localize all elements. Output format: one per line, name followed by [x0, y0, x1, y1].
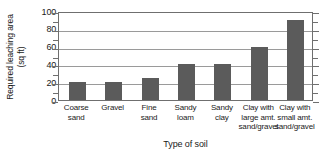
y-axis-tick-labels: 020406080100 — [30, 0, 56, 113]
x-axis-tick-labels: CoarsesandGravelFinesandSandyloamSandycl… — [58, 103, 313, 137]
x-axis-title: Type of soil — [58, 139, 313, 150]
right-axis-tick — [313, 93, 318, 94]
bar-chart-figure: Required leaching area (sq ft) 020406080… — [0, 0, 335, 159]
x-tick-label-line: sand — [53, 113, 99, 123]
right-axis-tick — [313, 22, 318, 23]
left-axis-tick — [52, 13, 58, 14]
x-tick-label: Clay withsmall amt.sand/gravel — [272, 103, 318, 132]
y-axis-title-line-1: Required leaching area — [5, 14, 16, 100]
right-axis-tick — [313, 31, 319, 32]
left-axis-tick — [53, 58, 58, 59]
right-axis-tick — [313, 58, 318, 59]
right-axis-tick — [313, 13, 319, 14]
y-tick-label: 20 — [30, 79, 56, 88]
right-axis-tick — [313, 40, 318, 41]
y-axis-title-line-2: (sq ft) — [15, 14, 26, 100]
left-axis-tick — [52, 31, 58, 32]
left-axis-tick — [52, 84, 58, 85]
x-tick-label-line: Clay with — [272, 103, 318, 113]
bar — [105, 82, 122, 100]
plot-inner — [59, 13, 312, 100]
y-tick-label: 40 — [30, 61, 56, 70]
y-tick-label: 100 — [30, 8, 56, 17]
left-axis-tick — [53, 93, 58, 94]
x-tick-label-line: small amt. — [272, 113, 318, 123]
right-axis-tick — [313, 49, 319, 50]
bar — [178, 64, 195, 100]
left-axis-tick — [53, 40, 58, 41]
bar — [251, 47, 268, 100]
bar — [287, 20, 304, 100]
left-axis-tick — [52, 66, 58, 67]
left-axis-tick — [52, 49, 58, 50]
bar — [142, 78, 159, 100]
y-axis-title: Required leaching area (sq ft) — [0, 0, 30, 113]
bar — [69, 82, 86, 100]
plot-area — [58, 12, 313, 101]
left-axis-tick — [53, 75, 58, 76]
right-axis-tick — [313, 66, 319, 67]
bar — [214, 64, 231, 100]
right-axis-tick — [313, 84, 319, 85]
x-tick-label-line: sand/gravel — [272, 122, 318, 132]
right-axis-tick — [313, 75, 318, 76]
y-tick-label: 80 — [30, 25, 56, 34]
y-tick-label: 60 — [30, 43, 56, 52]
bar-series — [59, 13, 312, 100]
left-axis-tick — [53, 22, 58, 23]
